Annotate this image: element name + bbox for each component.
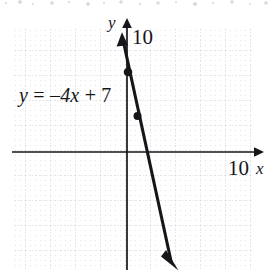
equation-equals: = (33, 84, 44, 106)
grid (12, 27, 252, 270)
point-second (134, 112, 142, 120)
linear-function-figure: y 10 10 x y = –4x + 7 (0, 0, 279, 273)
point-y-intercept (124, 68, 133, 77)
y-axis-label: y (108, 14, 116, 31)
equation-constant: 7 (101, 84, 111, 106)
equation-plus: + (85, 84, 96, 106)
x-axis-label: x (256, 160, 264, 177)
equation-term: –4x (50, 84, 79, 106)
equation-lhs: y (19, 84, 28, 106)
x-axis-tick-label: 10 (228, 158, 249, 179)
y-axis-tick-label: 10 (132, 27, 153, 48)
equation-label: y = –4x + 7 (19, 85, 112, 105)
